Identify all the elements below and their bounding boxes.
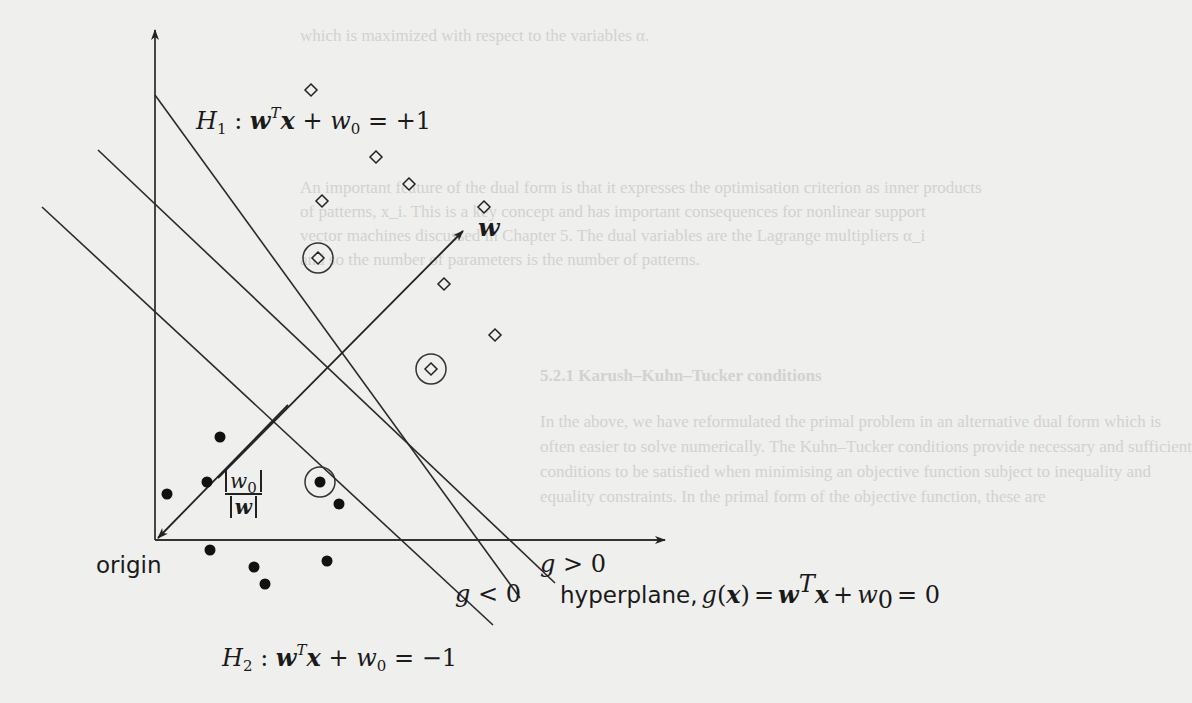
h2-x: x	[307, 643, 321, 672]
hp-w0: w	[857, 581, 878, 609]
diamond-point-icon	[489, 329, 501, 341]
hp-x2: x	[815, 580, 829, 609]
filled-dot-point-icon	[202, 477, 213, 488]
hp-paren-open: (	[717, 581, 726, 609]
h2-w0-sub: 0	[377, 657, 387, 675]
g-pos-relation: > 0	[563, 550, 606, 578]
h2-symbol: H	[222, 644, 243, 672]
filled-dot-point-icon	[260, 579, 271, 590]
hp-w0-sub: 0	[878, 586, 893, 614]
filled-dot-point-icon	[334, 499, 345, 510]
diamond-point-icon	[312, 252, 324, 264]
h2-transpose: T	[297, 641, 307, 659]
h2-rhs: = −1	[394, 644, 457, 672]
h1-symbol: H	[196, 107, 217, 135]
h1-line	[155, 95, 520, 598]
h2-subscript: 2	[243, 657, 253, 675]
g-negative-label: g < 0	[455, 580, 521, 608]
h2-w: w	[276, 643, 297, 672]
hp-rhs: = 0	[897, 581, 940, 609]
filled-dot-point-icon	[162, 489, 173, 500]
filled-dot-point-icon	[249, 562, 260, 573]
hp-eq: =	[754, 581, 774, 609]
hp-w: w	[778, 580, 799, 609]
filled-dot-point-icon	[322, 556, 333, 567]
distance-fraction: w0 w	[225, 470, 262, 518]
origin-label: origin	[96, 552, 162, 578]
filled-dot-point-icon	[205, 545, 216, 556]
g-pos-symbol: g	[540, 550, 555, 578]
distance-numerator: w0	[225, 470, 262, 492]
distance-arrow	[158, 405, 288, 538]
h1-w0-sub: 0	[351, 120, 361, 138]
vectors	[158, 231, 463, 538]
h2-plus: +	[329, 644, 349, 672]
h1-x: x	[281, 106, 295, 135]
hyperplane-label: hyperplane, g(x) = wTx + w0 = 0	[560, 580, 940, 609]
hp-T: T	[799, 570, 815, 598]
g-neg-symbol: g	[455, 580, 470, 608]
hp-g: g	[702, 581, 717, 609]
diamond-point-icon	[370, 151, 382, 163]
diamond-point-icon	[478, 201, 490, 213]
filled-dot-point-icon	[215, 432, 226, 443]
g-neg-relation: < 0	[478, 580, 521, 608]
h2-colon: :	[260, 644, 268, 672]
h1-subscript: 1	[217, 120, 227, 138]
hp-x: x	[726, 580, 740, 609]
h1-rhs: = +1	[368, 107, 431, 135]
num-w: w	[230, 469, 247, 493]
filled-dot-point-icon	[315, 477, 326, 488]
w-vector-label: w	[478, 213, 500, 242]
h1-label: H1 : wTx + w0 = +1	[196, 106, 431, 135]
hp-plus: +	[833, 581, 853, 609]
diamond-point-icon	[403, 178, 415, 190]
h1-plus: +	[303, 107, 323, 135]
g-positive-label: g > 0	[540, 550, 606, 578]
diamond-point-icon	[305, 84, 317, 96]
margin-lines	[42, 95, 555, 625]
diamond-point-icon	[438, 278, 450, 290]
h1-w: w	[250, 106, 271, 135]
h1-colon: :	[234, 107, 242, 135]
hp-paren-close: )	[741, 581, 750, 609]
h1-transpose: T	[271, 104, 281, 122]
diamond-point-icon	[425, 363, 437, 375]
diamond-point-icon	[316, 195, 328, 207]
hyperplane-word: hyperplane,	[560, 582, 698, 608]
h1-w0: w	[330, 107, 351, 135]
h2-label: H2 : wTx + w0 = −1	[222, 643, 457, 672]
distance-denominator: w	[230, 496, 257, 518]
h2-w0: w	[356, 644, 377, 672]
